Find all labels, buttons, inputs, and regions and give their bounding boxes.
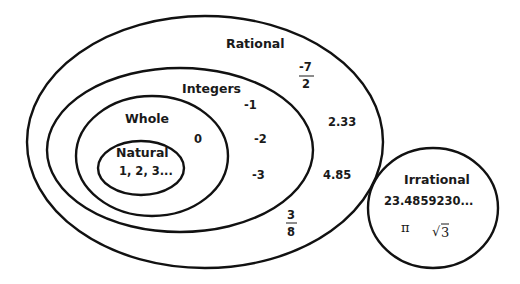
- natural-label: Natural: [116, 145, 169, 160]
- fraction-three-eighths: 3 8: [286, 208, 297, 239]
- decimal-2-33: 2.33: [328, 115, 356, 129]
- integers-set: Integers -1 -2 -3: [47, 68, 313, 232]
- pi-symbol: π: [401, 220, 410, 235]
- irrational-circle: [368, 148, 498, 268]
- fraction-denominator: 2: [302, 77, 310, 91]
- fraction-numerator: -7: [299, 60, 312, 74]
- integers-ellipse: [47, 68, 313, 232]
- rational-label: Rational: [226, 36, 285, 51]
- natural-examples: 1, 2, 3...: [119, 164, 173, 178]
- number-sets-diagram: Rational -7 2 2.33 4.85 3 8 Integers -1 …: [0, 0, 520, 284]
- irrational-decimal: 23.4859230...: [384, 194, 474, 208]
- whole-label: Whole: [125, 111, 169, 126]
- sqrt-icon: √: [432, 224, 441, 239]
- fraction-neg-seven-halves: -7 2: [299, 60, 314, 91]
- sqrt-value: 3: [441, 225, 449, 240]
- natural-set: Natural 1, 2, 3...: [98, 141, 184, 195]
- integer-neg-3: -3: [252, 168, 265, 182]
- fraction-denominator: 8: [287, 225, 295, 239]
- integer-neg-1: -1: [244, 98, 257, 112]
- sqrt-three: √ 3: [432, 224, 449, 240]
- fraction-numerator: 3: [287, 208, 295, 222]
- irrational-set: Irrational 23.4859230... π √ 3: [368, 148, 498, 268]
- decimal-4-85: 4.85: [323, 168, 351, 182]
- whole-zero: 0: [194, 132, 202, 146]
- irrational-label: Irrational: [404, 172, 470, 187]
- integer-neg-2: -2: [254, 132, 267, 146]
- integers-label: Integers: [182, 81, 241, 96]
